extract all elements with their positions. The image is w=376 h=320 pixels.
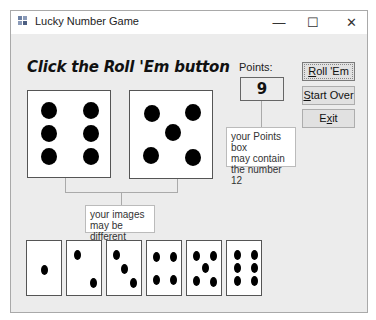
button-label: it xyxy=(332,112,338,124)
pip xyxy=(41,102,57,119)
annotation-text: your Points box xyxy=(231,131,291,153)
pip xyxy=(41,148,57,165)
pip xyxy=(234,250,241,260)
pip xyxy=(185,104,201,121)
die-image-5 xyxy=(186,240,222,296)
pip xyxy=(83,148,99,165)
button-label: tart Over xyxy=(311,89,354,101)
annotation-text: may contain xyxy=(231,153,291,164)
points-label: Points: xyxy=(239,61,273,73)
die-image-1 xyxy=(26,240,62,296)
pip xyxy=(121,264,128,274)
die-2-image xyxy=(129,90,213,179)
annotation-line xyxy=(261,101,262,127)
pip xyxy=(165,124,181,141)
maximize-button[interactable]: ☐ xyxy=(295,11,331,34)
annotation-text: may be different xyxy=(90,220,150,242)
mnemonic: R xyxy=(308,65,316,77)
pip xyxy=(210,251,217,261)
pip xyxy=(130,278,137,288)
die-image-6 xyxy=(226,240,262,296)
pip xyxy=(202,263,209,273)
annotation-line xyxy=(177,179,178,192)
die-image-3 xyxy=(106,240,142,296)
pip xyxy=(83,102,99,119)
annotation-text: your images xyxy=(90,209,150,220)
app-icon xyxy=(18,16,28,26)
pip xyxy=(185,149,201,166)
mnemonic: S xyxy=(303,89,310,101)
exit-button[interactable]: Exit xyxy=(302,109,355,128)
button-label: E xyxy=(319,112,326,124)
close-button[interactable]: ✕ xyxy=(333,11,369,34)
minimize-button[interactable]: — xyxy=(261,11,297,34)
pip xyxy=(153,252,160,262)
pip xyxy=(74,250,81,260)
points-box: 9 xyxy=(240,77,284,101)
pip xyxy=(251,263,258,273)
pip xyxy=(41,125,57,142)
images-annotation: your images may be different xyxy=(85,205,155,233)
pip xyxy=(234,276,241,286)
pip xyxy=(90,278,97,288)
pip xyxy=(83,125,99,142)
pip xyxy=(143,147,159,164)
pip xyxy=(144,105,160,122)
start-over-button[interactable]: Start Over xyxy=(302,86,355,105)
points-annotation: your Points box may contain the number 1… xyxy=(226,127,296,167)
die-image-2 xyxy=(66,240,102,296)
pip xyxy=(234,263,241,273)
pip xyxy=(170,275,177,285)
pip xyxy=(210,277,217,287)
die-image-4 xyxy=(146,240,182,296)
pip xyxy=(251,276,258,286)
pip xyxy=(153,275,160,285)
window-title: Lucky Number Game xyxy=(35,15,139,27)
die-1-image xyxy=(27,90,111,178)
annotation-text: the number 12 xyxy=(231,164,291,186)
pip xyxy=(193,251,200,261)
button-label: oll 'Em xyxy=(316,65,349,77)
pip xyxy=(41,265,48,275)
annotation-line xyxy=(65,178,66,192)
instruction-heading: Click the Roll 'Em button xyxy=(27,58,230,76)
app-window: Lucky Number Game — ☐ ✕ Click the Roll '… xyxy=(10,10,368,313)
pip xyxy=(113,250,120,260)
pip xyxy=(251,250,258,260)
pip xyxy=(193,276,200,286)
annotation-line xyxy=(121,192,122,205)
pip xyxy=(170,252,177,262)
roll-em-button[interactable]: Roll 'Em xyxy=(302,62,355,81)
title-bar: Lucky Number Game — ☐ ✕ xyxy=(11,11,367,34)
